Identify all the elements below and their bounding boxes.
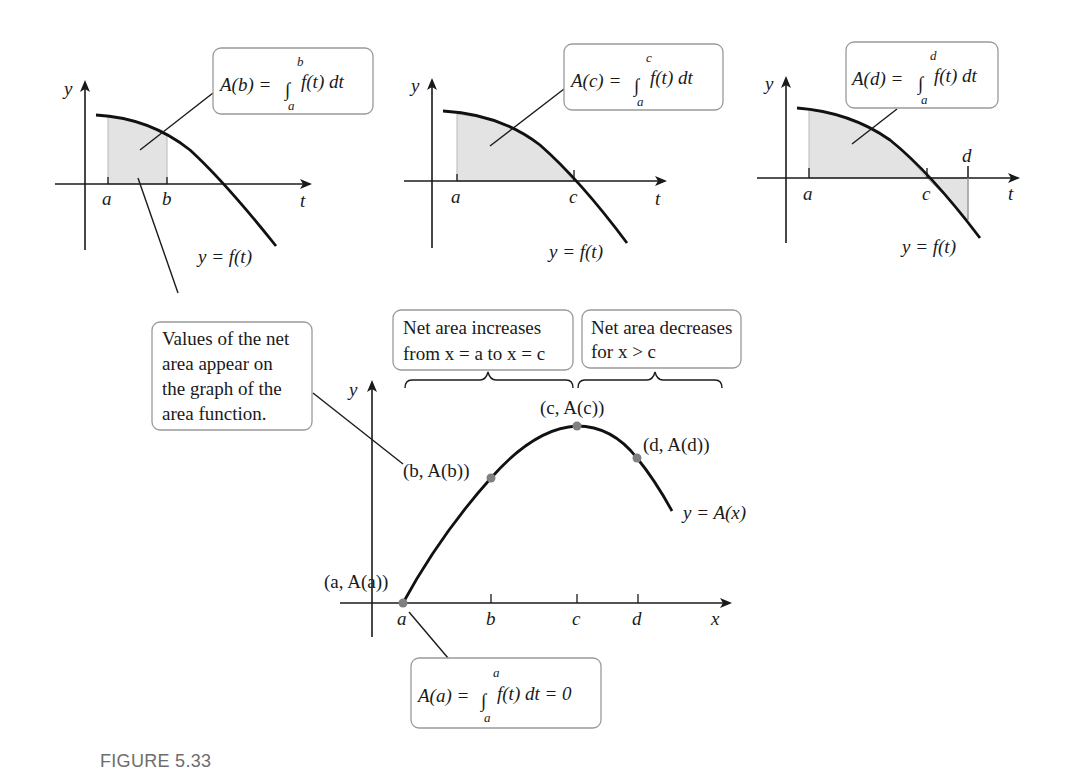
curve-A: [403, 426, 672, 603]
note-line-2: area appear on: [162, 353, 273, 374]
brace-decrease: [578, 372, 722, 388]
note-line-4: area function.: [162, 403, 266, 424]
note-line-1: Values of the net: [162, 328, 290, 349]
tick-label-a: a: [102, 188, 112, 209]
lower-limit: a: [637, 94, 644, 109]
point-d: [633, 454, 642, 463]
point-label-c: (c, A(c)): [540, 397, 604, 419]
curve-label: y = f(t): [547, 241, 603, 263]
lower-limit: a: [288, 98, 295, 113]
brace-increase: [405, 372, 573, 388]
curve-label: y = f(t): [196, 246, 252, 268]
tick-label-a: a: [803, 183, 813, 204]
shaded-area-a-to-b: [108, 116, 167, 184]
tick-label-a: a: [451, 186, 461, 207]
figure-caption: FIGURE 5.33: [100, 751, 211, 771]
tick-label-d: d: [632, 608, 642, 629]
tick-label-c: c: [572, 608, 581, 629]
callout-lhs: A(b) =: [218, 74, 271, 96]
point-label-b: (b, A(b)): [403, 460, 469, 482]
panel-b: y t a b y = f(t) A(b) = ∫ b a f(t) dt: [55, 48, 373, 293]
y-axis-label: y: [62, 78, 73, 99]
y-axis-label: y: [409, 75, 420, 96]
tick-label-b: b: [162, 188, 172, 209]
decrease-line-1: Net area decreases: [591, 317, 732, 338]
leader-to-Aa: [409, 612, 448, 658]
lower-limit: a: [921, 92, 928, 107]
increase-line-2: from x = a to x = c: [403, 343, 545, 364]
callout-lhs: A(c) =: [569, 70, 621, 92]
figure-canvas: y t a b y = f(t) A(b) = ∫ b a f(t) dt y …: [0, 0, 1070, 780]
callout-lhs: A(a) =: [416, 685, 469, 707]
point-c: [573, 422, 582, 431]
x-axis-label: x: [710, 608, 720, 629]
tick-label-c: c: [922, 183, 931, 204]
shaded-area-a-to-c: [457, 114, 574, 181]
note-line-3: the graph of the: [162, 378, 282, 399]
point-label-a: (a, A(a)): [324, 571, 388, 593]
tick-label-b: b: [486, 608, 496, 629]
t-axis-label: t: [300, 190, 306, 211]
point-a: [399, 599, 408, 608]
integrand: f(t) dt: [650, 67, 693, 89]
increase-line-1: Net area increases: [403, 317, 541, 338]
upper-limit: d: [930, 48, 937, 63]
point-b: [487, 474, 496, 483]
upper-limit: c: [646, 50, 652, 65]
integrand: f(t) dt: [934, 65, 977, 87]
decrease-line-2: for x > c: [591, 341, 656, 362]
upper-limit: b: [297, 54, 304, 69]
curve-label: y = A(x): [681, 502, 746, 524]
area-function-graph: Values of the net area appear on the gra…: [152, 310, 746, 728]
upper-limit: a: [493, 665, 500, 680]
tick-label-c: c: [569, 186, 578, 207]
point-label-d: (d, A(d)): [643, 434, 709, 456]
y-axis-label: y: [763, 73, 774, 94]
t-axis-label: t: [655, 188, 661, 209]
lower-limit: a: [484, 710, 491, 725]
tick-label-d: d: [962, 145, 972, 166]
integrand: f(t) dt: [301, 71, 344, 93]
curve-label: y = f(t): [900, 236, 956, 258]
tick-label-a: a: [397, 608, 407, 629]
t-axis-label: t: [1008, 183, 1014, 204]
shaded-area-a-to-c: [809, 110, 927, 178]
callout-lhs: A(d) =: [850, 68, 903, 90]
leader-to-note: [138, 178, 178, 293]
leader-note-to-b: [313, 393, 403, 464]
panel-c: y t a c y = f(t) A(c) = ∫ c a f(t) dt: [404, 44, 723, 263]
integrand: f(t) dt = 0: [497, 683, 572, 705]
panel-d: y t a c d y = f(t) A(d) = ∫ d a f(t) dt: [757, 42, 1018, 258]
y-axis-label: y: [347, 379, 358, 400]
